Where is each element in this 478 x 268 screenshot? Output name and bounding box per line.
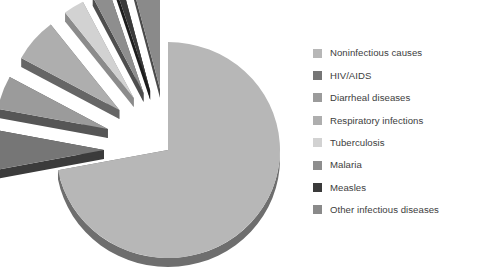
legend-item-label: Diarrheal diseases <box>330 93 410 103</box>
legend-color-swatch <box>313 138 322 147</box>
legend-color-swatch <box>313 205 322 214</box>
legend-item-label: Other infectious diseases <box>330 205 439 215</box>
legend-color-swatch <box>313 93 322 102</box>
legend-item[interactable]: Diarrheal diseases <box>310 87 478 109</box>
legend-item[interactable]: Tuberculosis <box>310 132 478 154</box>
legend-item-label: Malaria <box>330 160 362 170</box>
legend-color-swatch <box>313 183 322 192</box>
legend-item[interactable]: Malaria <box>310 154 478 176</box>
legend-color-swatch <box>313 49 322 58</box>
chart-legend: Noninfectious causesHIV/AIDSDiarrheal di… <box>310 42 478 221</box>
legend-item[interactable]: Measles <box>310 176 478 198</box>
legend-item[interactable]: Respiratory infections <box>310 109 478 131</box>
pie-chart-figure: Noninfectious causesHIV/AIDSDiarrheal di… <box>0 0 478 268</box>
legend-item[interactable]: Other infectious diseases <box>310 199 478 221</box>
legend-item[interactable]: HIV/AIDS <box>310 64 478 86</box>
pie-slice-top-layer <box>0 0 280 258</box>
legend-color-swatch <box>313 116 322 125</box>
legend-color-swatch <box>313 71 322 80</box>
legend-item-label: Measles <box>330 183 366 193</box>
pie-chart-plot-area <box>0 0 300 268</box>
pie-chart-svg <box>0 0 300 268</box>
legend-item-label: Respiratory infections <box>330 116 423 126</box>
legend-item-label: Tuberculosis <box>330 138 385 148</box>
legend-item-label: HIV/AIDS <box>330 71 371 81</box>
legend-item[interactable]: Noninfectious causes <box>310 42 478 64</box>
legend-item-label: Noninfectious causes <box>330 48 422 58</box>
legend-color-swatch <box>313 161 322 170</box>
